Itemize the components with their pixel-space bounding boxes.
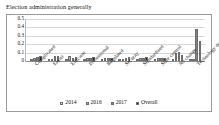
y-tick-label: 0.3: [18, 33, 24, 38]
y-tick-label: 0.2: [18, 42, 24, 47]
legend-swatch-icon: [136, 102, 139, 105]
y-tick-label: 0: [21, 58, 24, 63]
legend-label: 2014: [65, 100, 76, 106]
legend-item[interactable]: 2017: [111, 100, 127, 106]
y-tick-label: 0.5: [18, 16, 24, 21]
legend-swatch-icon: [86, 102, 89, 105]
legend-item[interactable]: 2014: [60, 100, 76, 106]
chart-frame: 00.10.20.30.40.5 ComplicatedEasierEffici…: [6, 14, 212, 112]
legend-item[interactable]: Overall: [136, 100, 158, 106]
chart-page: Election administration generally 00.10.…: [0, 0, 219, 125]
legend-label: 2016: [91, 100, 102, 106]
legend-label: 2017: [116, 100, 127, 106]
y-tick-label: 0.4: [18, 25, 24, 30]
page-title: Election administration generally: [6, 3, 92, 11]
y-tick-label: 0.1: [18, 50, 24, 55]
chart-legend: 201420162017Overall: [7, 100, 211, 106]
legend-swatch-icon: [60, 102, 63, 105]
legend-swatch-icon: [111, 102, 114, 105]
legend-item[interactable]: 2016: [86, 100, 102, 106]
legend-label: Overall: [141, 100, 158, 106]
